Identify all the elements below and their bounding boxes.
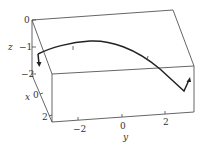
y-tick-minus2: −2	[73, 124, 86, 134]
y-axis-label: y	[122, 132, 129, 142]
x-tick-2: 2	[42, 112, 48, 122]
box-top-face	[32, 10, 194, 74]
bounding-box	[32, 10, 194, 122]
z-tick-0: 0	[24, 15, 30, 25]
x-axis-label: x	[25, 92, 30, 102]
arrowhead-up-icon	[187, 77, 192, 82]
z-tick-minus2: −2	[21, 69, 34, 79]
y-tick-2: 2	[163, 117, 169, 127]
arrowhead-down-icon	[37, 62, 42, 67]
x-axis-ticks: 0 2 x	[25, 90, 52, 122]
y-tick-0: 0	[120, 121, 126, 131]
x-tick-0: 0	[33, 90, 39, 100]
3d-curve-plot: 0 −1 −2 z 0 2 x −2 0 2 y	[0, 0, 204, 150]
y-axis-ticks: −2 0 2 y	[73, 111, 169, 142]
z-axis-label: z	[7, 42, 13, 52]
space-curve	[37, 41, 192, 91]
z-tick-minus1: −1	[19, 42, 32, 52]
